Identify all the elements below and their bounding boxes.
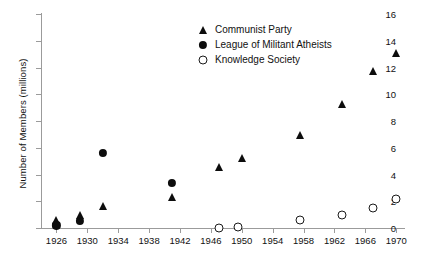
data-point xyxy=(369,67,377,75)
x-axis-tick-label: 1926 xyxy=(46,235,67,246)
data-point xyxy=(238,154,246,162)
x-axis-tick xyxy=(334,228,335,233)
y-axis-tick xyxy=(36,228,41,229)
y-axis-tick-label: 6 xyxy=(391,142,396,153)
y-axis-tick xyxy=(36,148,41,149)
data-point xyxy=(295,215,304,224)
data-point xyxy=(99,202,107,210)
open-circle-marker xyxy=(199,55,208,64)
x-axis-tick xyxy=(396,228,397,233)
y-axis-tick-label: 10 xyxy=(385,89,396,100)
x-axis-tick xyxy=(87,228,88,233)
y-axis-tick-label: 14 xyxy=(385,35,396,46)
x-axis-tick-label: 1966 xyxy=(355,235,376,246)
legend-item-label: Communist Party xyxy=(215,25,292,35)
y-axis-tick xyxy=(36,41,41,42)
y-axis-tick-label: 12 xyxy=(385,62,396,73)
y-axis-tick-label: 8 xyxy=(391,116,396,127)
y-axis-tick-label: 0 xyxy=(391,223,396,234)
legend-marker-icon xyxy=(196,53,210,67)
x-axis-tick xyxy=(211,228,212,233)
x-axis-tick-label: 1954 xyxy=(262,235,283,246)
data-point xyxy=(233,223,242,232)
data-point xyxy=(215,163,223,171)
y-axis-tick xyxy=(36,68,41,69)
data-point xyxy=(168,193,176,201)
x-axis-tick-label: 1962 xyxy=(324,235,345,246)
x-axis-tick-label: 1970 xyxy=(386,235,407,246)
y-axis-tick xyxy=(36,14,41,15)
x-axis-tick xyxy=(180,228,181,233)
data-point xyxy=(168,178,176,186)
data-point xyxy=(99,149,107,157)
y-axis-tick-label: 16 xyxy=(385,9,396,20)
x-axis-tick-label: 1958 xyxy=(293,235,314,246)
y-axis-label: Number of Members (millions) xyxy=(17,24,28,224)
legend-item-label: Knowledge Society xyxy=(215,55,300,65)
data-point xyxy=(369,203,378,212)
y-axis-tick-label: 4 xyxy=(391,169,396,180)
x-axis-tick-label: 1942 xyxy=(169,235,190,246)
x-axis-tick-label: 1934 xyxy=(108,235,129,246)
data-point xyxy=(214,224,223,233)
x-axis-tick-label: 1950 xyxy=(231,235,252,246)
data-point xyxy=(76,217,84,225)
filled-circle-marker xyxy=(199,40,207,48)
filled-triangle-marker xyxy=(199,26,207,34)
y-axis-tick xyxy=(36,175,41,176)
y-axis-tick xyxy=(36,201,41,202)
x-axis-tick-label: 1938 xyxy=(139,235,160,246)
legend-item: Knowledge Society xyxy=(196,52,332,67)
legend-marker-icon xyxy=(196,23,210,37)
x-axis-tick xyxy=(118,228,119,233)
legend-marker-icon xyxy=(196,38,210,52)
x-axis-tick-label: 1930 xyxy=(77,235,98,246)
x-axis-tick-label: 1946 xyxy=(200,235,221,246)
data-point xyxy=(392,195,401,204)
legend-item: League of Militant Atheists xyxy=(196,37,332,52)
data-point xyxy=(338,100,346,108)
x-axis-tick xyxy=(273,228,274,233)
y-axis-tick xyxy=(36,94,41,95)
x-axis-tick xyxy=(304,228,305,233)
data-point xyxy=(338,210,347,219)
legend-item-label: League of Militant Atheists xyxy=(215,40,332,50)
scatter-chart: Number of Members (millions) 02468101214… xyxy=(0,0,421,261)
chart-legend: Communist PartyLeague of Militant Atheis… xyxy=(196,22,332,67)
x-axis-tick xyxy=(365,228,366,233)
legend-item: Communist Party xyxy=(196,22,332,37)
data-point xyxy=(296,131,304,139)
y-axis-tick xyxy=(36,121,41,122)
x-axis-tick xyxy=(149,228,150,233)
data-point xyxy=(392,49,400,57)
